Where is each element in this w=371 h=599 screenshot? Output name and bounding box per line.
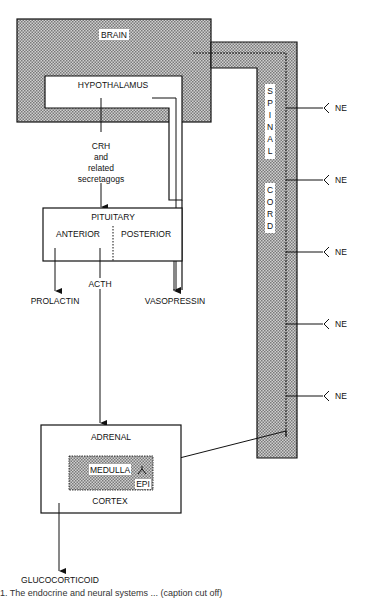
spinal-letter: L: [268, 146, 273, 156]
cortex-label: CORTEX: [92, 496, 128, 506]
vasopressin-label: VASOPRESSIN: [145, 296, 205, 306]
ne-label: NE: [335, 247, 347, 257]
crh-secretagogs-label: secretagogs: [78, 174, 124, 184]
crh-related-label: related: [88, 163, 114, 173]
acth-label: ACTH: [88, 279, 111, 289]
spinal-letter: A: [267, 134, 273, 144]
crh-and-label: and: [94, 152, 108, 162]
prolactin-label: PROLACTIN: [31, 296, 80, 306]
cord-letter: D: [267, 221, 273, 231]
medulla-label: MEDULLA: [90, 465, 130, 475]
anterior-label: ANTERIOR: [56, 229, 100, 239]
spinal-letter: P: [267, 98, 273, 108]
ne-label: NE: [335, 319, 347, 329]
adrenal-label: ADRENAL: [91, 432, 131, 442]
epi-label: EPI: [136, 479, 150, 489]
hypothalamus-label: HYPOTHALAMUS: [78, 80, 149, 90]
spinal-letter: I: [269, 110, 271, 120]
ne-label: NE: [335, 175, 347, 185]
crh-label: CRH: [92, 141, 110, 151]
spinal-letter: N: [267, 122, 273, 132]
cord-letter: R: [267, 209, 273, 219]
posterior-label: POSTERIOR: [121, 229, 171, 239]
pituitary-label: PITUITARY: [91, 212, 135, 222]
figure-caption: 1. The endocrine and neural systems ... …: [0, 588, 371, 599]
cord-letter: C: [267, 185, 273, 195]
spinal-letter: S: [267, 86, 273, 96]
brain-label: BRAIN: [101, 30, 127, 40]
glucocorticoid-label: GLUCOCORTICOID: [21, 575, 99, 585]
ne-label: NE: [335, 103, 347, 113]
cord-letter: O: [267, 197, 274, 207]
stress-axis-diagram: BRAIN HYPOTHALAMUS CRH and related secre…: [0, 0, 371, 599]
ne-label: NE: [335, 391, 347, 401]
